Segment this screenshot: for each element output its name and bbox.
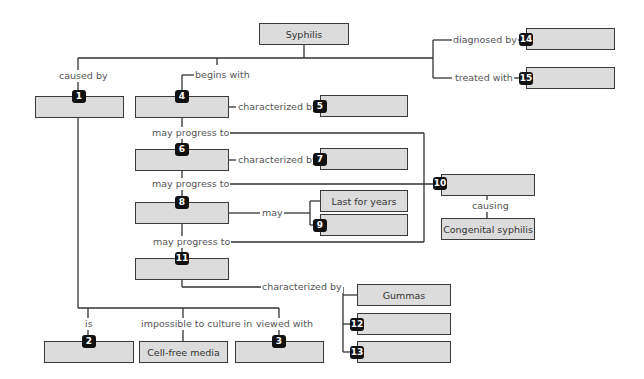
marker-7: 7 bbox=[313, 153, 327, 166]
marker-14: 14 bbox=[519, 33, 533, 46]
marker-10: 10 bbox=[433, 177, 447, 190]
link-is: is bbox=[84, 318, 94, 330]
link-may-progress-8: may progress to bbox=[152, 236, 231, 248]
marker-12: 12 bbox=[350, 318, 364, 331]
link-impossible-to-culture: impossible to culture in bbox=[140, 318, 253, 330]
link-causing: causing bbox=[471, 200, 510, 212]
link-viewed-with: viewed with bbox=[255, 318, 314, 330]
marker-8: 8 bbox=[175, 196, 189, 209]
node-cell-free-media-text: Cell-free media bbox=[147, 347, 220, 358]
link-may: may bbox=[261, 207, 284, 219]
node-last-for-years: Last for years bbox=[320, 190, 408, 212]
link-characterized-by-11: characterized by bbox=[261, 281, 343, 293]
blank-box-12[interactable] bbox=[357, 313, 451, 335]
link-characterized-by-6: characterized by bbox=[237, 154, 319, 166]
node-cell-free-media: Cell-free media bbox=[139, 341, 228, 363]
marker-13: 13 bbox=[350, 346, 364, 359]
link-may-progress-6: may progress to bbox=[151, 178, 230, 190]
node-gummas: Gummas bbox=[357, 284, 451, 306]
node-syphilis-text: Syphilis bbox=[286, 29, 323, 40]
node-congenital-syphilis-text: Congenital syphilis bbox=[443, 224, 533, 235]
blank-box-5[interactable] bbox=[320, 95, 408, 117]
marker-9: 9 bbox=[313, 219, 327, 232]
node-last-for-years-text: Last for years bbox=[331, 196, 396, 207]
link-treated-with: treated with bbox=[454, 72, 514, 84]
blank-box-10[interactable] bbox=[441, 174, 535, 196]
marker-5: 5 bbox=[313, 100, 327, 113]
link-characterized-by-4: characterized by bbox=[237, 101, 319, 113]
marker-3: 3 bbox=[272, 335, 286, 348]
blank-box-13[interactable] bbox=[357, 341, 451, 363]
link-begins-with: begins with bbox=[194, 69, 251, 81]
blank-box-9[interactable] bbox=[320, 214, 408, 236]
node-gummas-text: Gummas bbox=[383, 290, 426, 301]
node-congenital-syphilis: Congenital syphilis bbox=[441, 218, 535, 240]
marker-1: 1 bbox=[72, 90, 86, 103]
marker-4: 4 bbox=[175, 90, 189, 103]
marker-6: 6 bbox=[175, 143, 189, 156]
blank-box-15[interactable] bbox=[526, 67, 615, 89]
blank-box-14[interactable] bbox=[526, 28, 615, 50]
marker-2: 2 bbox=[82, 335, 96, 348]
link-may-progress-4: may progress to bbox=[151, 127, 230, 139]
link-caused-by: caused by bbox=[58, 70, 109, 82]
marker-11: 11 bbox=[175, 252, 189, 265]
blank-box-7[interactable] bbox=[320, 148, 408, 170]
node-syphilis: Syphilis bbox=[259, 23, 349, 45]
marker-15: 15 bbox=[519, 72, 533, 85]
link-diagnosed-by: diagnosed by bbox=[452, 34, 518, 46]
